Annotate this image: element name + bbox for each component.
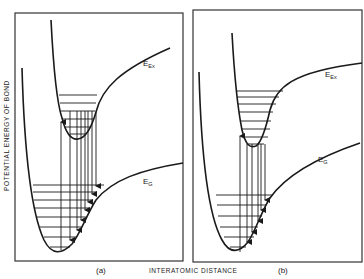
panel-a-excited-curve: [51, 20, 170, 139]
potential-energy-diagram: POTENTIAL ENERGY OF BOND EEx EG EEx EG (…: [0, 0, 364, 279]
panel-b: [193, 10, 362, 262]
panel-a-emission-arrows: [70, 111, 96, 240]
panel-b-excited-label: EEx: [325, 70, 337, 80]
diagram-canvas: [0, 0, 364, 279]
x-axis-label: INTERATOMIC DISTANCE: [149, 267, 237, 274]
panel-b-frame: [193, 10, 362, 262]
panel-a: [15, 13, 183, 261]
panel-b-label: (b): [278, 266, 288, 275]
panel-b-ground-label: EG: [318, 155, 328, 165]
panel-a-frame: [15, 13, 183, 261]
panel-b-ground-levels: [216, 195, 272, 247]
panel-a-excited-label: EEx: [143, 59, 155, 69]
y-axis-label: POTENTIAL ENERGY OF BOND: [3, 56, 10, 216]
panel-b-ground-curve: [199, 72, 360, 250]
panel-a-label: (a): [96, 266, 106, 275]
panel-b-excited-curve: [232, 33, 362, 147]
panel-a-ground-label: EG: [143, 177, 153, 187]
